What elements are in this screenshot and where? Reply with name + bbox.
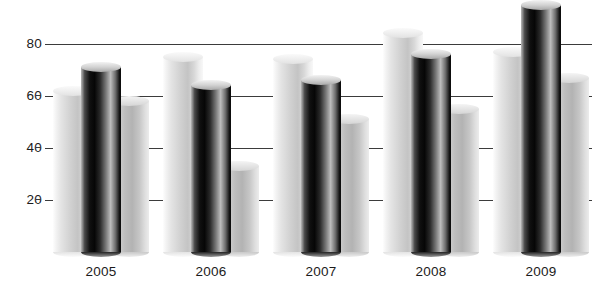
bar-2005-series-2[interactable] — [81, 62, 121, 252]
bar-2008-series-2[interactable] — [411, 49, 451, 252]
bar-2009-series-2[interactable] — [521, 0, 561, 252]
bar-2006-series-2[interactable] — [191, 80, 231, 252]
bar-body — [81, 67, 121, 252]
x-tick-label-2005: 2005 — [47, 265, 155, 279]
y-tick-dash-40 — [36, 147, 41, 148]
bar-top-ellipse — [163, 52, 203, 62]
plot-area: 80 60 40 20 20052006200720082009 — [0, 0, 614, 299]
x-tick-label-2006: 2006 — [157, 265, 265, 279]
bar-body — [301, 80, 341, 252]
bar-2007-series-2[interactable] — [301, 75, 341, 252]
gridline-80 — [45, 44, 592, 45]
bar-chart: 80 60 40 20 20052006200720082009 — [0, 0, 614, 299]
x-tick-label-2008: 2008 — [377, 265, 485, 279]
y-tick-dash-60 — [36, 95, 41, 96]
bar-body — [191, 85, 231, 252]
y-tick-60: 60 — [0, 89, 42, 103]
y-tick-label-80: 80 — [12, 37, 42, 51]
bar-top-ellipse — [521, 0, 561, 10]
x-tick-label-2007: 2007 — [267, 265, 375, 279]
y-tick-80: 80 — [0, 37, 42, 51]
y-tick-40: 40 — [0, 141, 42, 155]
y-tick-20: 20 — [0, 193, 42, 207]
y-tick-dash-20 — [36, 199, 41, 200]
bar-body — [521, 5, 561, 252]
bar-body — [411, 54, 451, 252]
x-tick-label-2009: 2009 — [487, 265, 595, 279]
